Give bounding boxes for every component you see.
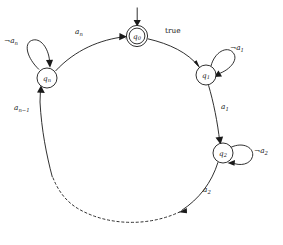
edge-label-not-a-n: ¬an [4, 37, 18, 47]
edge-q0-to-q1-arrowhead [194, 60, 200, 68]
edge-q2-to-ellipsis-path [182, 162, 219, 210]
edge-qn-to-q0-path [56, 37, 126, 71]
edge-qn-to-q0-arrowhead-solid [119, 33, 127, 40]
edge-label-a-1: a1 [221, 103, 229, 113]
edge-initial-arrow [134, 8, 141, 27]
edge-qn-self-loop [27, 40, 53, 70]
edge-q1-to-q2 [209, 85, 224, 144]
edge-q2-to-ellipsis-arrowhead [179, 208, 187, 213]
state-q1[interactable]: q1 [196, 65, 216, 85]
edge-qn-self-loop-arrowhead [46, 60, 53, 68]
edge-ellipsis-to-qn [37, 86, 52, 178]
edge-label-true: true [165, 27, 181, 34]
automaton-svg: q0 q1 q2 qn [0, 0, 283, 245]
edge-qn-to-q0 [56, 33, 128, 71]
state-qn[interactable]: qn [37, 68, 57, 88]
edge-ellipsis-dashed-path [53, 177, 181, 223]
edge-label-a-n: an [75, 28, 83, 38]
edge-label-not-a-2: ¬a2 [254, 147, 268, 157]
edge-q1-to-q2-path [209, 85, 220, 142]
edge-ellipsis-to-qn-path [40, 89, 52, 178]
edge-ellipsis-dashed [53, 177, 181, 223]
edge-q2-to-ellipsis [179, 162, 218, 213]
edge-label-a-2: a2 [203, 186, 211, 196]
edge-q0-to-q1-path [148, 39, 199, 67]
state-q0[interactable]: q0 [126, 25, 147, 46]
edge-label-not-a-1: ¬a1 [230, 44, 244, 54]
automaton-figure: q0 q1 q2 qn an true ¬an ¬a1 a1 [0, 0, 283, 245]
edge-q0-to-q1 [148, 39, 200, 69]
state-q2[interactable]: q2 [213, 143, 233, 163]
edge-label-a-n-minus-1: an−1 [14, 104, 30, 114]
edge-qn-self-loop-path [27, 40, 49, 70]
